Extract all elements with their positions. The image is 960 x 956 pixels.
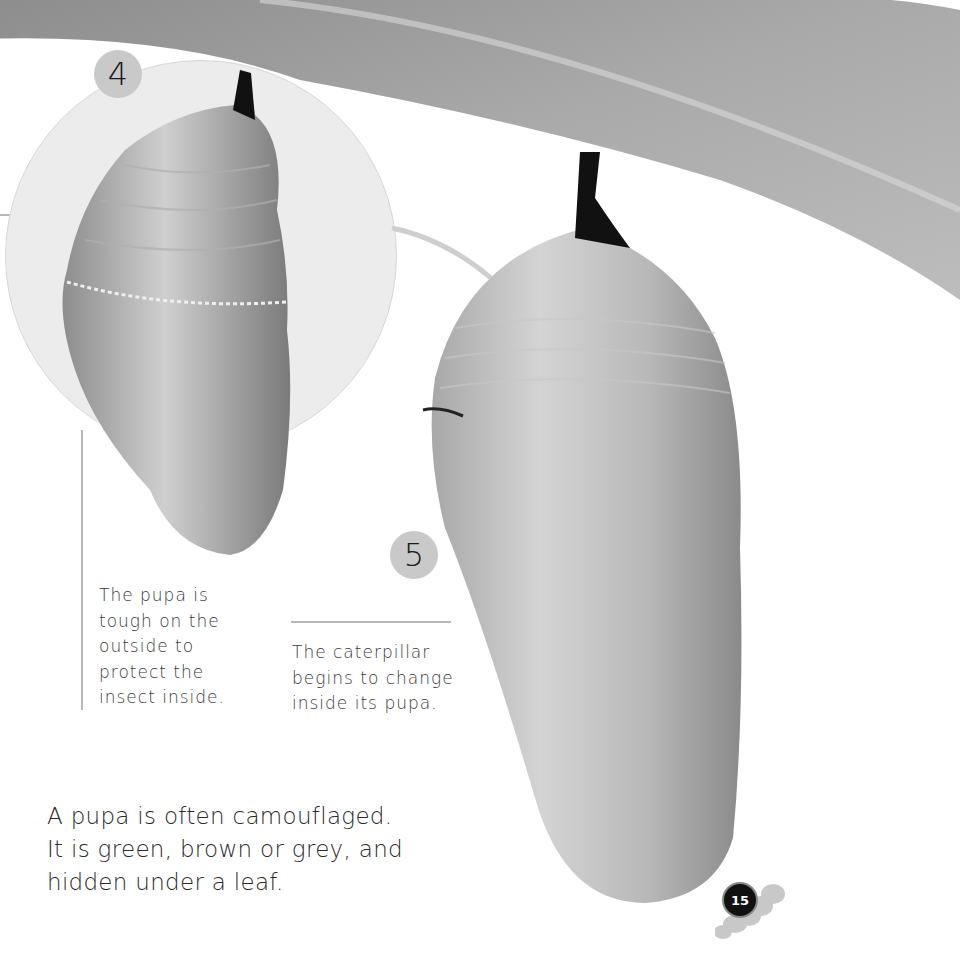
caption-line: The pupa is [99,583,225,609]
body-text: A pupa is often camouflaged. It is green… [47,800,403,899]
page-number-badge: 15 [722,882,758,918]
step-5-number: 5 [404,536,424,574]
caption-line: inside its pupa. [292,691,454,717]
caption-4-rule [81,430,83,710]
caption-line: begins to change [292,666,454,692]
page-number: 15 [731,893,749,908]
body-line: A pupa is often camouflaged. [47,800,403,833]
body-line: It is green, brown or grey, and [47,833,403,866]
step-4-caption: The pupa is tough on the outside to prot… [99,583,225,711]
step-4-number: 4 [108,55,128,93]
caption-line: protect the [99,660,225,686]
caption-5-rule [291,621,451,623]
caption-line: insect inside. [99,685,225,711]
step-4-badge: 4 [94,50,142,98]
chrysalis-hanging-photo [415,148,760,908]
body-line: hidden under a leaf. [47,866,403,899]
step-5-caption: The caterpillar begins to change inside … [292,640,454,717]
caption-line: The caterpillar [292,640,454,666]
chrysalis-closeup-photo [55,70,300,560]
caption-line: tough on the [99,609,225,635]
step-5-badge: 5 [390,531,438,579]
caption-line: outside to [99,634,225,660]
